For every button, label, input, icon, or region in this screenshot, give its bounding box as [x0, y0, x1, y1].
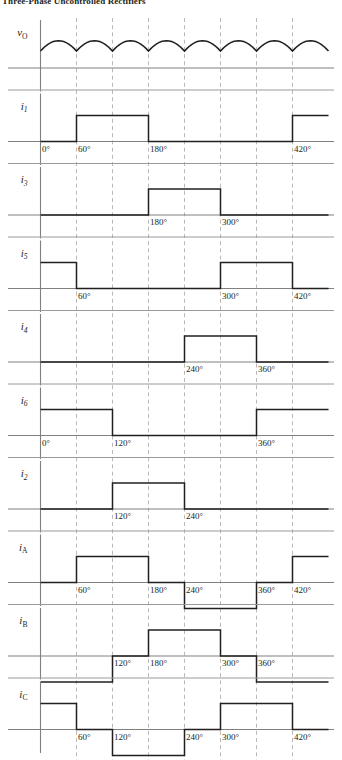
signal-label-iC: iC: [19, 688, 27, 703]
deg-label-iB-300: 300°: [222, 658, 240, 668]
deg-label-i5-60: 60°: [78, 291, 91, 301]
signal-label-i5: i5: [21, 247, 28, 262]
deg-label-iB-360: 360°: [258, 658, 276, 668]
signal-label-i2: i2: [21, 467, 28, 482]
deg-label-i4-360: 360°: [258, 364, 276, 374]
deg-label-i1-420: 420°: [294, 144, 312, 154]
deg-label-iC-240: 240°: [186, 732, 204, 742]
waveform-chart: vOi10°60°180°420°i3180°300°i560°300°420°…: [0, 0, 342, 760]
deg-label-iA-180: 180°: [150, 585, 168, 595]
deg-label-iA-420: 420°: [294, 585, 312, 595]
signal-label-vo: vO: [17, 26, 28, 41]
deg-label-i6-360: 360°: [258, 438, 276, 448]
deg-label-i2-240: 240°: [186, 511, 204, 521]
waveform-i4: [41, 336, 329, 362]
deg-label-i6-120: 120°: [114, 438, 132, 448]
deg-label-i1-180: 180°: [150, 144, 168, 154]
deg-label-i3-300: 300°: [222, 217, 240, 227]
signal-label-iA: iA: [19, 541, 28, 556]
deg-label-i6-0: 0°: [42, 438, 51, 448]
signal-label-i4: i4: [21, 320, 28, 335]
deg-label-i5-300: 300°: [222, 291, 240, 301]
deg-label-iC-120: 120°: [114, 732, 132, 742]
deg-label-iC-420: 420°: [294, 732, 312, 742]
figure-root: Three-Phase Uncontrolled Rectifiers vOi1…: [0, 0, 342, 760]
deg-label-iA-360: 360°: [258, 585, 276, 595]
waveform-i2: [41, 483, 329, 509]
signal-label-i6: i6: [21, 394, 28, 409]
deg-label-i5-420: 420°: [294, 291, 312, 301]
deg-label-iA-60: 60°: [78, 585, 91, 595]
deg-label-iC-300: 300°: [222, 732, 240, 742]
deg-label-iB-180: 180°: [150, 658, 168, 668]
signal-label-i3: i3: [21, 173, 28, 188]
deg-label-i2-120: 120°: [114, 511, 132, 521]
deg-label-iB-120: 120°: [114, 658, 132, 668]
deg-label-i3-180: 180°: [150, 217, 168, 227]
signal-label-iB: iB: [19, 614, 27, 629]
deg-label-i1-0: 0°: [42, 144, 51, 154]
signal-label-i1: i1: [21, 100, 28, 115]
deg-label-iC-60: 60°: [78, 732, 91, 742]
deg-label-i4-240: 240°: [186, 364, 204, 374]
deg-label-iA-240: 240°: [186, 585, 204, 595]
deg-label-i1-60: 60°: [78, 144, 91, 154]
